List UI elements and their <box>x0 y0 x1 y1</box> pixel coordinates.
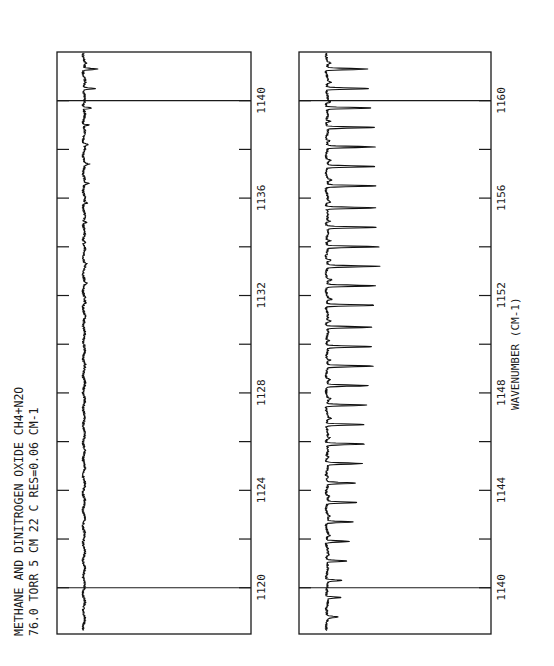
spectrum-panel-2: 114011441148115211561160 <box>299 52 508 634</box>
tick-label: 1144 <box>495 476 508 503</box>
tick-label: 1128 <box>255 379 268 406</box>
tick-label: 1140 <box>255 87 268 114</box>
x-axis-label: WAVENUMBER (CM-1) <box>509 297 522 410</box>
tick-label: 1132 <box>255 282 268 309</box>
plot-frame <box>57 52 251 634</box>
tick-label: 1160 <box>495 87 508 114</box>
spectrum-panel-1: 112011241128113211361140 <box>57 52 268 634</box>
tick-label: 1152 <box>495 282 508 309</box>
tick-label: 1148 <box>495 379 508 406</box>
tick-label: 1136 <box>255 185 268 212</box>
spectrum-trace <box>82 53 98 630</box>
tick-label: 1124 <box>255 476 268 503</box>
header-line-2: 76.0 TORR 5 CM 22 C RES=0.06 CM-1 <box>27 407 41 636</box>
spectrum-trace <box>325 53 380 630</box>
header-line-1: METHANE AND DINITROGEN OXIDE CH4+N2O <box>12 387 26 636</box>
tick-label: 1140 <box>495 574 508 601</box>
spectrum-chart: METHANE AND DINITROGEN OXIDE CH4+N2O 76.… <box>0 0 554 666</box>
chart-header: METHANE AND DINITROGEN OXIDE CH4+N2O 76.… <box>12 387 41 636</box>
plot-frame <box>299 52 491 634</box>
tick-label: 1156 <box>495 185 508 212</box>
tick-label: 1120 <box>255 574 268 601</box>
